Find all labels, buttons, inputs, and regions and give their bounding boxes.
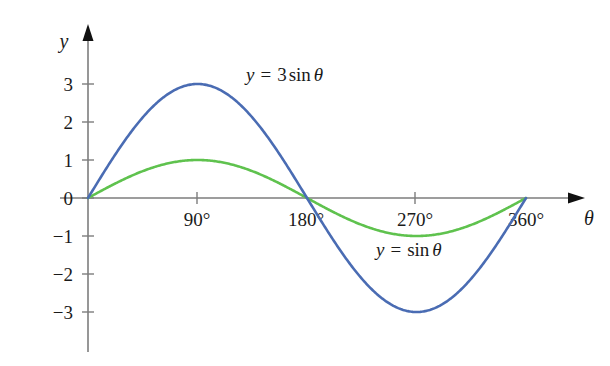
series-label-green-var: θ xyxy=(432,239,441,260)
series-label-green-eq: = xyxy=(390,239,401,260)
series-label-blue-eq: = xyxy=(260,64,271,85)
series-label-green-fn: sin xyxy=(407,239,430,260)
series-label-blue-y: y xyxy=(244,64,255,85)
x-tick-label-180: 180° xyxy=(288,209,324,230)
y-tick-label-neg3: −3 xyxy=(53,302,73,323)
series-label-blue-fn: sin xyxy=(289,64,312,85)
series-label-blue-coef: 3 xyxy=(277,64,287,85)
series-label-3sin-theta: y=3sinθ xyxy=(244,64,323,85)
x-tick-label-90: 90° xyxy=(184,209,211,230)
y-axis-tick-labels: 3 2 1 0 −1 −2 −3 xyxy=(53,74,73,323)
y-tick-label-neg1: −1 xyxy=(53,226,73,247)
y-axis-title: y xyxy=(58,30,69,53)
y-tick-label-0: 0 xyxy=(64,188,74,209)
x-axis-title: θ xyxy=(584,207,594,229)
trig-graph-figure: 3 2 1 0 −1 −2 −3 90° 180° 270° 360° y θ … xyxy=(0,0,610,366)
y-tick-label-3: 3 xyxy=(64,74,74,95)
series-label-sin-theta: y=sinθ xyxy=(374,239,442,260)
x-axis-arrowhead xyxy=(568,193,585,204)
series-label-blue-var: θ xyxy=(314,64,323,85)
y-tick-label-2: 2 xyxy=(64,112,74,133)
series-label-green-y: y xyxy=(374,239,385,260)
y-tick-label-1: 1 xyxy=(64,150,74,171)
y-axis-arrowhead xyxy=(83,24,94,41)
y-tick-label-neg2: −2 xyxy=(53,264,73,285)
x-tick-label-270: 270° xyxy=(397,209,433,230)
